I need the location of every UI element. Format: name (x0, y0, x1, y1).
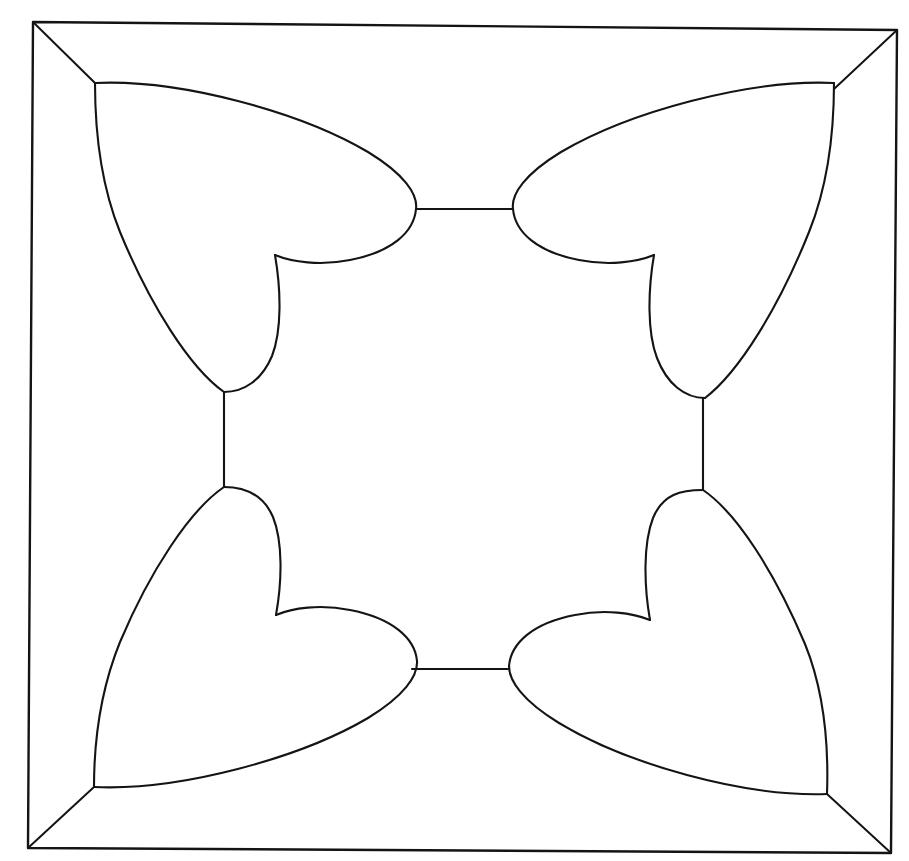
four-hearts-figure (0, 0, 909, 861)
drawing-canvas: Four Hearts in a Square Frame A black-on… (0, 0, 909, 861)
